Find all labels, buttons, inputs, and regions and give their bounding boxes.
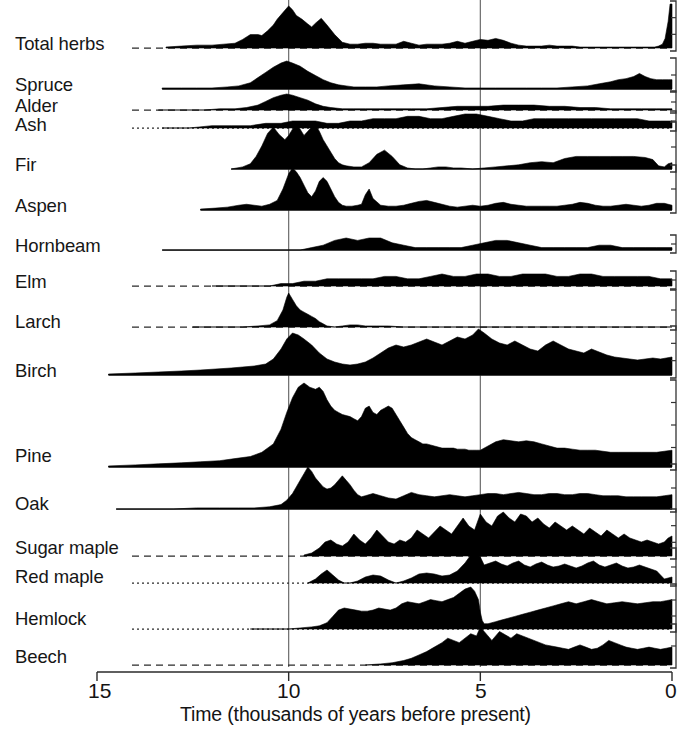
taxon-label-larch: Larch	[15, 313, 61, 332]
taxon-label-sugar-maple: Sugar maple	[15, 539, 119, 558]
taxon-label-fir: Fir	[15, 156, 36, 175]
taxon-label-oak: Oak	[15, 495, 49, 514]
taxon-label-red-maple: Red maple	[15, 568, 104, 587]
pollen-diagram	[0, 0, 689, 732]
taxon-label-beech: Beech	[15, 648, 67, 667]
x-tick-label-15: 15	[88, 680, 111, 701]
taxon-label-spruce: Spruce	[15, 76, 73, 95]
taxon-label-pine: Pine	[15, 447, 52, 466]
x-axis-title: Time (thousands of years before present)	[180, 705, 531, 725]
taxon-label-aspen: Aspen	[15, 197, 67, 216]
x-tick-label-0: 0	[665, 680, 677, 701]
taxon-label-elm: Elm	[15, 273, 47, 292]
taxon-label-total-herbs: Total herbs	[15, 35, 104, 54]
x-tick-label-10: 10	[277, 680, 300, 701]
taxon-label-birch: Birch	[15, 362, 57, 381]
x-tick-label-5: 5	[475, 680, 487, 701]
taxon-label-ash: Ash	[15, 116, 47, 135]
taxon-label-hornbeam: Hornbeam	[15, 237, 101, 256]
taxon-label-alder: Alder	[15, 97, 58, 116]
taxon-label-hemlock: Hemlock	[15, 610, 86, 629]
